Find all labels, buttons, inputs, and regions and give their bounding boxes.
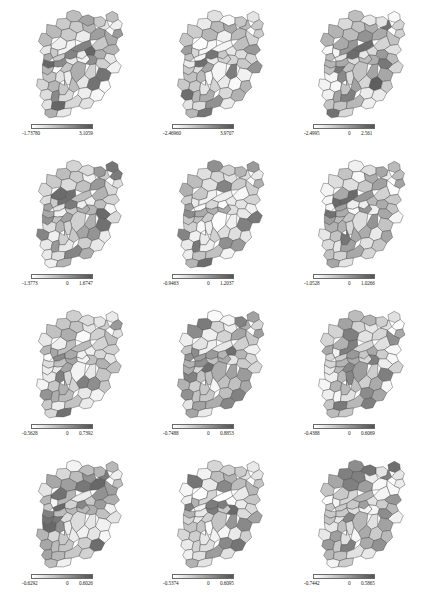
- choropleth-map-6: [282, 156, 423, 274]
- map-panel-3: -2.499502.561: [282, 0, 423, 150]
- map-district: [181, 89, 194, 100]
- map-panel-12: -0.744200.5865: [282, 450, 423, 600]
- map-district: [183, 399, 194, 410]
- map-district: [40, 239, 53, 250]
- choropleth-map-2: [141, 6, 282, 124]
- map-panel-4: -1.377301.6747: [0, 150, 141, 300]
- legend-3: -2.499502.561: [304, 124, 400, 138]
- legend-max-label-8: 0.8853: [220, 429, 234, 438]
- choropleth-map-7: [0, 306, 141, 424]
- map-district: [40, 389, 53, 400]
- legend-max-label-7: 0.7392: [79, 429, 93, 438]
- map-district: [40, 89, 53, 100]
- legend-min-label-9: -0.4388: [304, 429, 319, 438]
- legend-labels-9: -0.438800.6069: [304, 429, 400, 438]
- map-panel-11: -0.537400.6095: [141, 450, 282, 600]
- legend-labels-4: -1.377301.6747: [22, 279, 118, 288]
- legend-labels-6: -1.052801.0266: [304, 279, 400, 288]
- legend-8: -0.748800.8853: [163, 424, 259, 438]
- map-district: [324, 249, 335, 260]
- map-district: [181, 539, 194, 550]
- legend-9: -0.438800.6069: [304, 424, 400, 438]
- map-panel-6: -1.052801.0266: [282, 150, 423, 300]
- legend-min-label-5: -0.9463: [163, 279, 178, 288]
- map-district: [181, 389, 194, 400]
- choropleth-map-11: [141, 456, 282, 574]
- legend-max-label-12: 0.5865: [361, 579, 375, 588]
- map-district: [186, 109, 199, 118]
- legend-max-label-6: 1.0266: [361, 279, 375, 288]
- choropleth-map-5: [141, 156, 282, 274]
- legend-5: -0.946301.2037: [163, 274, 259, 288]
- legend-12: -0.744200.5865: [304, 574, 400, 588]
- legend-max-label-1: 3.1059: [79, 129, 93, 138]
- choropleth-map-9: [282, 306, 423, 424]
- map-district: [181, 239, 194, 250]
- legend-min-label-8: -0.7488: [163, 429, 178, 438]
- legend-labels-11: -0.537400.6095: [163, 579, 259, 588]
- legend-labels-10: -0.629200.6026: [22, 579, 118, 588]
- legend-7: -0.562800.7392: [22, 424, 118, 438]
- legend-min-label-6: -1.0528: [304, 279, 319, 288]
- choropleth-map-1: [0, 6, 141, 124]
- map-district: [186, 259, 199, 268]
- map-district: [183, 249, 194, 260]
- legend-min-label-2: -2.46960: [163, 129, 181, 138]
- legend-max-label-3: 2.561: [361, 129, 372, 138]
- legend-labels-8: -0.748800.8853: [163, 429, 259, 438]
- map-panel-10: -0.629200.6026: [0, 450, 141, 600]
- map-district: [45, 109, 58, 118]
- choropleth-map-4: [0, 156, 141, 274]
- map-district: [322, 539, 335, 550]
- map-district: [324, 99, 335, 110]
- legend-max-label-10: 0.6026: [79, 579, 93, 588]
- legend-2: -2.469603.9707: [163, 124, 259, 138]
- map-panel-9: -0.438800.6069: [282, 300, 423, 450]
- legend-4: -1.377301.6747: [22, 274, 118, 288]
- map-district: [324, 399, 335, 410]
- legend-mid-label-3: 0: [348, 129, 351, 138]
- map-district: [42, 99, 53, 110]
- map-district: [183, 549, 194, 560]
- legend-mid-label-9: 0: [348, 429, 351, 438]
- map-district: [327, 109, 340, 118]
- legend-mid-label-8: 0: [207, 429, 210, 438]
- legend-labels-12: -0.744200.5865: [304, 579, 400, 588]
- choropleth-map-3: [282, 6, 423, 124]
- legend-10: -0.629200.6026: [22, 574, 118, 588]
- map-panel-5: -0.946301.2037: [141, 150, 282, 300]
- legend-min-label-10: -0.6292: [22, 579, 37, 588]
- legend-min-label-1: -1.73780: [22, 129, 40, 138]
- map-district: [183, 99, 194, 110]
- choropleth-grid-figure: -1.737803.1059-2.469603.9707-2.499502.56…: [0, 0, 423, 600]
- legend-min-label-4: -1.3773: [22, 279, 37, 288]
- map-district: [42, 399, 53, 410]
- choropleth-map-10: [0, 456, 141, 574]
- legend-mid-label-11: 0: [207, 579, 210, 588]
- legend-labels-1: -1.737803.1059: [22, 129, 118, 138]
- map-district: [45, 259, 58, 268]
- legend-min-label-7: -0.5628: [22, 429, 37, 438]
- map-district: [186, 409, 199, 418]
- map-panel-2: -2.469603.9707: [141, 0, 282, 150]
- map-district: [42, 249, 53, 260]
- map-district: [186, 559, 199, 568]
- map-district: [324, 549, 335, 560]
- map-district: [322, 89, 335, 100]
- map-panel-1: -1.737803.1059: [0, 0, 141, 150]
- legend-max-label-9: 0.6069: [361, 429, 375, 438]
- map-district: [327, 259, 340, 268]
- legend-min-label-3: -2.4995: [304, 129, 319, 138]
- legend-labels-3: -2.499502.561: [304, 129, 400, 138]
- legend-labels-7: -0.562800.7392: [22, 429, 118, 438]
- legend-max-label-11: 0.6095: [220, 579, 234, 588]
- choropleth-map-12: [282, 456, 423, 574]
- map-district: [327, 559, 340, 568]
- legend-11: -0.537400.6095: [163, 574, 259, 588]
- map-district: [322, 389, 335, 400]
- map-district: [322, 239, 335, 250]
- legend-6: -1.052801.0266: [304, 274, 400, 288]
- panel-grid: -1.737803.1059-2.469603.9707-2.499502.56…: [0, 0, 423, 600]
- legend-min-label-11: -0.5374: [163, 579, 178, 588]
- choropleth-map-8: [141, 306, 282, 424]
